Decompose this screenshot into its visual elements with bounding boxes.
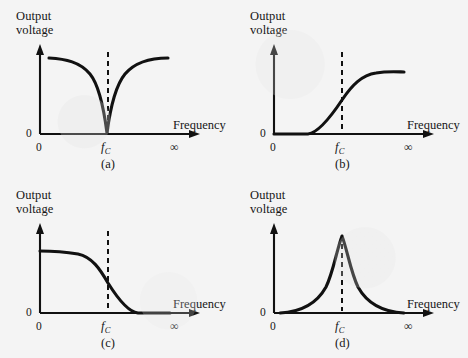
x-origin-zero-a: 0 — [36, 141, 42, 154]
y-origin-zero-d: 0 — [260, 306, 266, 319]
panel-letter-a: (a) — [101, 157, 115, 171]
x-origin-zero-b: 0 — [270, 141, 276, 154]
panel-a-band-stop: Output voltage 0 0 fC ∞ Frequency (a) — [0, 0, 234, 179]
y-origin-zero-b: 0 — [260, 127, 266, 140]
y-axis-arrowhead-d — [270, 223, 278, 234]
x-axis-label-c: Frequency — [173, 297, 226, 311]
y-origin-zero-a: 0 — [26, 127, 32, 140]
panel-letter-c: (c) — [101, 336, 115, 350]
panel-letter-b: (b) — [335, 157, 350, 171]
infinity-label-d: ∞ — [404, 320, 413, 333]
cutoff-label-c: fC — [101, 319, 110, 333]
panel-b-high-pass: Output voltage 0 0 fC ∞ Frequency (b) — [234, 0, 468, 179]
panel-c-low-pass: Output voltage 0 0 fC ∞ Frequency (c) — [0, 179, 234, 358]
x-axis-label-d: Frequency — [407, 297, 460, 311]
infinity-label-b: ∞ — [404, 141, 413, 154]
curve-low-pass — [40, 251, 170, 313]
y-axis-label-c: Output voltage — [16, 188, 54, 216]
y-axis-label-b: Output voltage — [250, 9, 288, 37]
x-origin-zero-d: 0 — [270, 320, 276, 333]
x-axis-label-a: Frequency — [173, 118, 226, 132]
curve-high-pass — [274, 72, 404, 134]
panel-letter-d: (d) — [335, 336, 350, 350]
y-axis-label-d: Output voltage — [250, 188, 288, 216]
infinity-label-c: ∞ — [170, 320, 179, 333]
filter-response-figure: Output voltage 0 0 fC ∞ Frequency (a) Ou… — [0, 0, 468, 358]
y-axis-arrowhead-c — [36, 223, 44, 234]
x-origin-zero-c: 0 — [36, 320, 42, 333]
y-axis-arrowhead-b — [270, 44, 278, 55]
cutoff-label-d: fC — [335, 319, 344, 333]
y-axis-arrowhead-a — [36, 44, 44, 55]
infinity-label-a: ∞ — [170, 141, 179, 154]
y-axis-label-a: Output voltage — [16, 9, 54, 37]
y-origin-zero-c: 0 — [26, 306, 32, 319]
x-axis-label-b: Frequency — [407, 118, 460, 132]
curve-band-stop — [49, 58, 168, 133]
cutoff-label-b: fC — [335, 140, 344, 154]
panel-d-band-pass: Output voltage 0 0 fC ∞ Frequency (d) — [234, 179, 468, 358]
cutoff-label-a: fC — [101, 140, 110, 154]
